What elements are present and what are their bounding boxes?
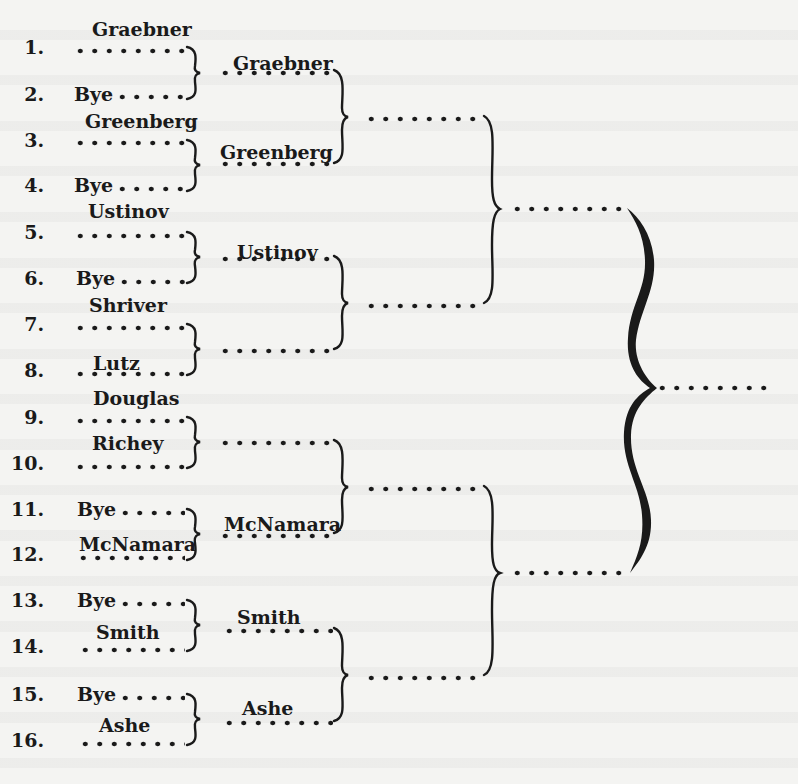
- brace-icon: [187, 417, 200, 468]
- brace-icon: [187, 600, 200, 651]
- final-brace-icon: [624, 208, 657, 573]
- brace-icon: [187, 140, 200, 191]
- brace-icon: [187, 694, 200, 745]
- brace-icon: [187, 232, 200, 283]
- brace-icon: [334, 256, 348, 349]
- brace-icon: [334, 628, 348, 721]
- brace-icon: [187, 47, 200, 99]
- brace-icon: [187, 324, 200, 375]
- brace-icon: [334, 440, 348, 533]
- brace-icon: [484, 486, 500, 675]
- brace-icon: [187, 509, 200, 560]
- brace-icon: [334, 70, 348, 163]
- bracket-braces: [0, 0, 798, 784]
- brace-icon: [484, 116, 500, 303]
